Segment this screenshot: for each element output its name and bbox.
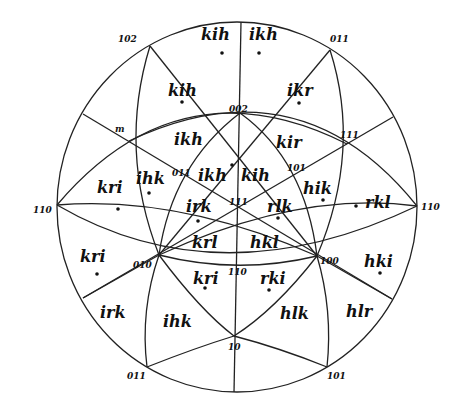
- region-label: kih: [201, 25, 230, 44]
- pole-label: 102: [118, 34, 137, 44]
- pole-label: 111: [229, 197, 248, 207]
- arc-bottom101-10: [234, 336, 327, 367]
- arc-100-bottom101: [317, 256, 329, 367]
- region-dot: [257, 51, 261, 55]
- pole-label: 101: [287, 163, 306, 173]
- pole-label: 011: [330, 34, 349, 44]
- region-label: ikh: [198, 166, 227, 185]
- region-label: krl: [192, 233, 218, 252]
- region-label: ihk: [136, 169, 165, 188]
- region-dot: [220, 51, 224, 55]
- region-label: hlk: [280, 304, 309, 323]
- pole-label: 110: [33, 205, 53, 215]
- region-dot: [297, 101, 301, 105]
- arc-right110-left111: [129, 112, 417, 206]
- region-label: hki: [364, 252, 393, 271]
- region-dot: [267, 288, 271, 292]
- pole-label: 111: [340, 130, 359, 140]
- region-label: ikr: [287, 81, 314, 100]
- region-label: kri: [80, 247, 106, 266]
- region-label: kih: [168, 81, 197, 100]
- region-label: rki: [260, 269, 286, 288]
- pole-label: 101: [327, 371, 346, 381]
- region-dot: [354, 204, 358, 208]
- region-label: irk: [100, 303, 126, 322]
- region-label: ikh: [174, 130, 203, 149]
- pole-label: 011: [127, 371, 146, 381]
- pole-label: 100: [320, 256, 340, 266]
- region-dot: [95, 272, 99, 276]
- arc-010-bottom011: [145, 255, 159, 367]
- region-dot: [378, 271, 382, 275]
- region-dot: [196, 219, 200, 223]
- region-label: kri: [97, 178, 123, 197]
- region-label: hlr: [346, 302, 374, 321]
- region-dot: [203, 286, 207, 290]
- pole-label: m: [115, 124, 125, 134]
- arc-010-010-mid: [159, 255, 317, 265]
- pole-label: 10: [228, 342, 241, 352]
- region-label: kir: [276, 133, 303, 152]
- region-label: ikh: [249, 25, 278, 44]
- region-dot: [276, 216, 280, 220]
- arc-bottom011-10: [147, 336, 234, 367]
- region-label: rlk: [267, 197, 293, 216]
- region-label: hkl: [250, 233, 279, 252]
- region-label: rkl: [365, 193, 391, 212]
- pole-label: 002: [229, 104, 248, 114]
- pole-label: 010: [133, 260, 153, 270]
- arc-102-010: [136, 46, 159, 255]
- region-label: irk: [186, 197, 212, 216]
- region-dot: [321, 198, 325, 202]
- region-label: kri: [193, 269, 219, 288]
- region-dot: [180, 100, 184, 104]
- region-dot: [147, 191, 151, 195]
- region-dot: [116, 207, 120, 211]
- region-label: hik: [303, 179, 332, 198]
- region-label: kih: [241, 166, 270, 185]
- region-label: ihk: [163, 312, 192, 331]
- region-dot: [230, 163, 234, 167]
- pole-label: 011: [172, 168, 191, 178]
- stereographic-projection: 102011002m111011101111110110010110100100…: [0, 0, 454, 404]
- pole-label: 110: [228, 267, 248, 277]
- pole-label: 110: [421, 202, 441, 212]
